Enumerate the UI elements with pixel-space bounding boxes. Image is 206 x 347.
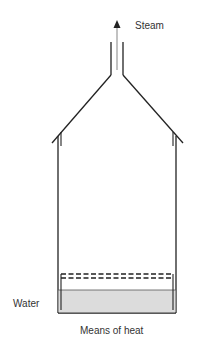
condensing-roof xyxy=(52,75,183,143)
water-layer xyxy=(59,290,176,312)
water-label: Water xyxy=(13,299,39,309)
means-of-heat-label: Means of heat xyxy=(80,326,143,336)
collection-gutters xyxy=(61,132,173,146)
outer-vessel xyxy=(58,136,176,313)
steam-label: Steam xyxy=(135,21,164,31)
still-diagram xyxy=(0,0,206,347)
steam-arrow-icon xyxy=(114,20,121,70)
